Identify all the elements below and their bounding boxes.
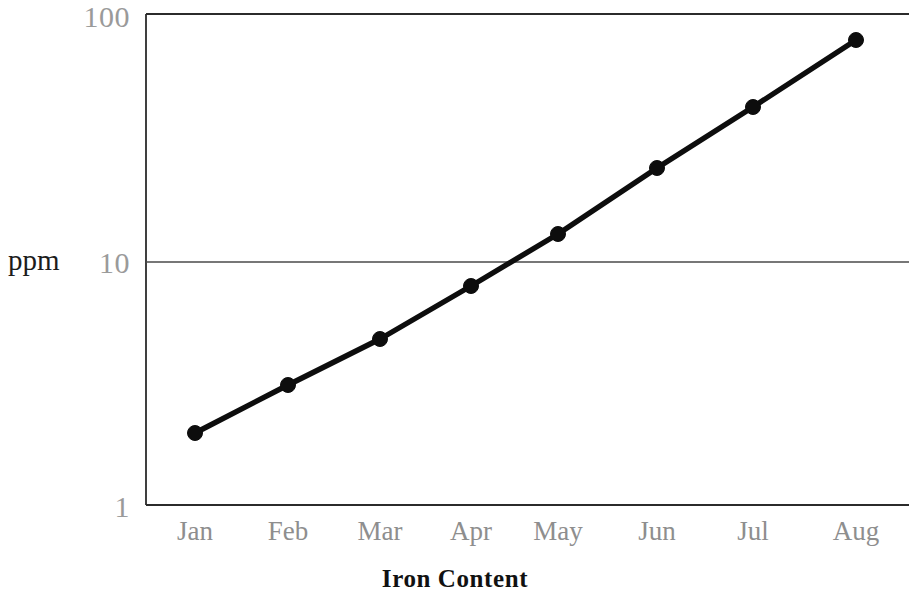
x-tick-label-jun: Jun	[607, 518, 707, 545]
x-tick-label-jan: Jan	[145, 518, 245, 545]
x-tick-label-feb: Feb	[238, 518, 338, 545]
data-point-apr	[464, 279, 479, 294]
x-tick-label-aug: Aug	[806, 518, 906, 545]
data-point-jul	[746, 100, 761, 115]
x-axis-title: Iron Content	[355, 566, 555, 591]
data-point-mar	[373, 332, 388, 347]
data-series-line	[195, 40, 856, 433]
plot-area	[0, 0, 909, 601]
x-tick-label-may: May	[508, 518, 608, 545]
data-point-jun	[650, 161, 665, 176]
data-point-feb	[281, 378, 296, 393]
data-point-aug	[849, 33, 864, 48]
x-tick-label-mar: Mar	[330, 518, 430, 545]
x-tick-label-jul: Jul	[703, 518, 803, 545]
x-tick-label-apr: Apr	[421, 518, 521, 545]
chart-page: ppm 100 10 1 Jan Feb Mar Apr May Jun Jul…	[0, 0, 909, 601]
data-point-may	[551, 227, 566, 242]
data-point-jan	[188, 426, 203, 441]
